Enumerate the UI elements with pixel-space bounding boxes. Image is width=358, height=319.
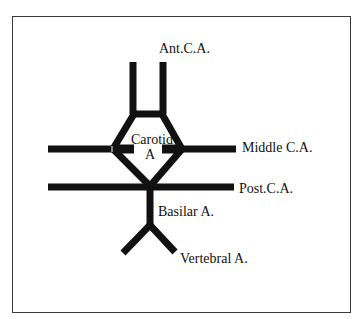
label-middle-cerebral-artery: Middle C.A. [242, 141, 312, 155]
vertebral-arteries [123, 225, 175, 253]
diagram-canvas: Ant.C.A. Carotid A Middle C.A. Post.C.A.… [0, 0, 358, 319]
label-posterior-cerebral-artery: Post.C.A. [239, 182, 293, 196]
label-basilar-artery: Basilar A. [158, 205, 214, 219]
label-carotid-line1: Carotid [131, 133, 169, 147]
label-carotid-line2: A [131, 148, 169, 162]
label-vertebral-artery: Vertebral A. [180, 252, 248, 266]
label-anterior-cerebral-artery: Ant.C.A. [159, 42, 210, 56]
